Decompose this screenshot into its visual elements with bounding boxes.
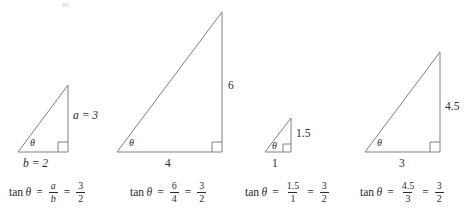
triangle-3-adjacent-label: 1 xyxy=(272,158,278,170)
triangle-2-adjacent-label: 4 xyxy=(165,158,171,170)
ratio-numerator-2: 6 xyxy=(170,181,179,192)
result-denominator-2: 2 xyxy=(197,192,206,204)
result-fraction-2: 3 2 xyxy=(196,181,207,204)
triangle-4-formula: tan θ = 4.5 3 = 3 2 xyxy=(360,180,445,204)
triangle-1-formula: tan θ = a b = 3 2 xyxy=(9,180,86,204)
theta-symbol-3: θ xyxy=(262,186,268,198)
triangle-3-angle-label: θ xyxy=(272,141,277,151)
triangle-2-formula: tan θ = 6 4 = 3 2 xyxy=(130,180,207,204)
equals-sign-1a: = xyxy=(36,186,43,198)
triangle-4-adjacent-label: 3 xyxy=(399,158,405,170)
tan-function-4: tan xyxy=(360,186,374,198)
equals-sign-4b: = xyxy=(422,186,429,198)
triangle-1-shape xyxy=(18,85,68,152)
triangle-3-formula: tan θ = 1.5 1 = 3 2 xyxy=(245,180,330,204)
triangle-4-angle-label: θ xyxy=(377,138,382,148)
equals-sign-4a: = xyxy=(387,186,394,198)
tan-function-2: tan xyxy=(130,186,144,198)
result-numerator-1: 3 xyxy=(76,181,85,192)
theta-symbol-2: θ xyxy=(147,186,153,198)
equals-sign-2b: = xyxy=(185,186,192,198)
triangle-3-opposite-label: 1.5 xyxy=(296,128,310,140)
ratio-denominator-2: 4 xyxy=(170,192,179,204)
ratio-denominator-1: b xyxy=(49,192,58,204)
equals-sign-3a: = xyxy=(272,186,279,198)
result-fraction-3: 3 2 xyxy=(319,181,330,204)
ratio-fraction-1: a b xyxy=(48,181,59,204)
triangle-4-opposite-label: 4.5 xyxy=(445,101,459,113)
triangle-2-angle-label: θ xyxy=(129,138,134,148)
ratio-fraction-3: 1.5 1 xyxy=(284,181,303,204)
theta-symbol-4: θ xyxy=(377,186,383,198)
ratio-numerator-4: 4.5 xyxy=(400,181,417,192)
ratio-numerator-1: a xyxy=(49,181,58,192)
result-numerator-2: 3 xyxy=(197,181,206,192)
triangle-2-opposite-label: 6 xyxy=(228,80,234,92)
triangle-1-opposite-label: a = 3 xyxy=(73,110,98,122)
result-fraction-4: 3 2 xyxy=(434,181,445,204)
equals-sign-3b: = xyxy=(307,186,314,198)
result-fraction-1: 3 2 xyxy=(75,181,86,204)
ratio-numerator-3: 1.5 xyxy=(285,181,302,192)
similar-triangles-figure: a = 3 b = 2 θ 6 4 θ 1.5 1 θ 4.5 3 θ tan … xyxy=(0,0,465,210)
result-denominator-4: 2 xyxy=(435,192,444,204)
ratio-fraction-4: 4.5 3 xyxy=(399,181,418,204)
triangles-drawing xyxy=(0,0,465,210)
tan-function-1: tan xyxy=(9,186,23,198)
theta-symbol-1: θ xyxy=(26,186,32,198)
equals-sign-2a: = xyxy=(157,186,164,198)
result-numerator-4: 3 xyxy=(435,181,444,192)
result-denominator-3: 2 xyxy=(320,192,329,204)
ratio-denominator-3: 1 xyxy=(288,192,297,204)
tan-function-3: tan xyxy=(245,186,259,198)
triangle-1-angle-label: θ xyxy=(30,138,35,148)
triangle-1-adjacent-label: b = 2 xyxy=(23,158,48,170)
triangle-3-shape xyxy=(265,118,291,152)
result-numerator-3: 3 xyxy=(320,181,329,192)
ratio-denominator-4: 3 xyxy=(403,192,412,204)
equals-sign-1b: = xyxy=(64,186,71,198)
result-denominator-1: 2 xyxy=(76,192,85,204)
ratio-fraction-2: 6 4 xyxy=(169,181,180,204)
triangle-2-shape xyxy=(117,12,222,152)
